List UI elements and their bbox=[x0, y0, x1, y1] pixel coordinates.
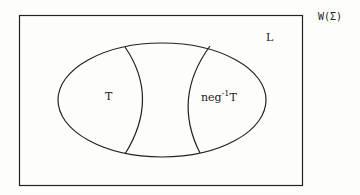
set-L-label: L bbox=[266, 32, 273, 43]
region-negT-label: neg-1T bbox=[201, 90, 237, 103]
universe-label: W(Σ) bbox=[318, 12, 342, 22]
diagram-canvas bbox=[0, 0, 360, 195]
region-T-boundary bbox=[125, 47, 143, 154]
universe-rectangle bbox=[20, 16, 303, 186]
negT-base: neg bbox=[201, 91, 222, 104]
region-T-label: T bbox=[105, 91, 112, 102]
negT-tail: T bbox=[229, 91, 236, 104]
